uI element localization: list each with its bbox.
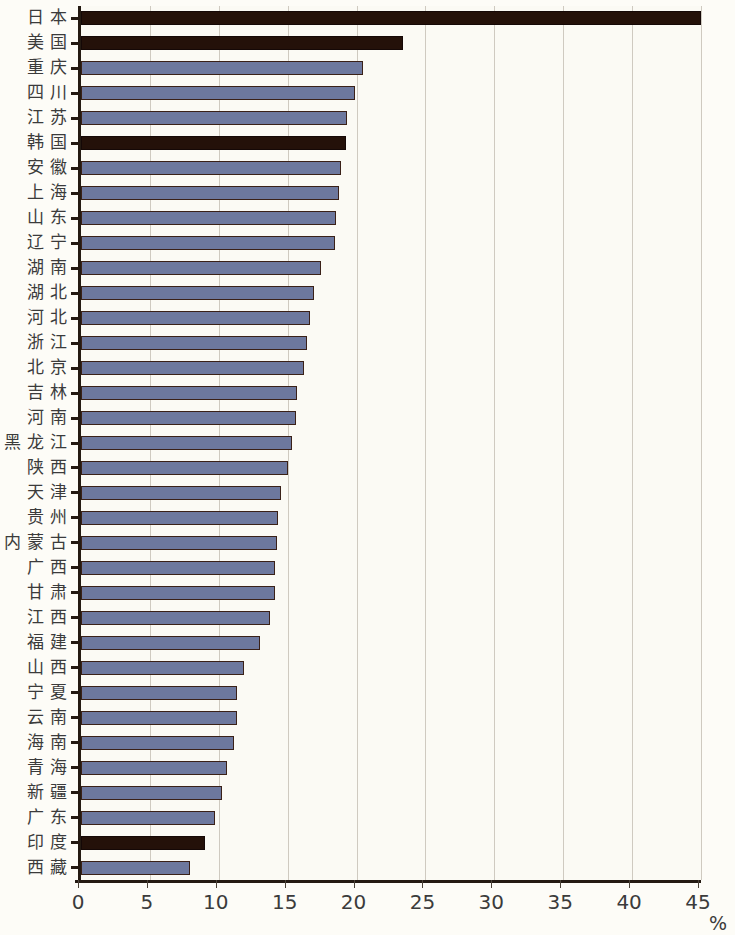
- y-axis-label-内蒙古: 内蒙古: [1, 534, 70, 551]
- bar-海南: [81, 736, 234, 750]
- x-axis-tick-label-group: 051015202530354045: [0, 890, 735, 916]
- bar-row: [81, 586, 701, 600]
- y-axis-label-江西: 江西: [24, 609, 70, 626]
- y-axis-label-海南: 海南: [24, 734, 70, 751]
- x-axis-tick-group: [0, 880, 735, 889]
- bar-row: [81, 736, 701, 750]
- bar-天津: [81, 486, 281, 500]
- y-axis-label-西藏: 西藏: [24, 859, 70, 876]
- bar-内蒙古: [81, 536, 277, 550]
- bar-row: [81, 536, 701, 550]
- y-axis-label-湖南: 湖南: [24, 259, 70, 276]
- x-axis-tick-label-40: 40: [616, 890, 641, 914]
- bar-甘肃: [81, 586, 275, 600]
- gridline-45: [701, 6, 702, 880]
- y-axis-label-四川: 四川: [24, 84, 70, 101]
- bar-河北: [81, 311, 310, 325]
- y-axis-label-陕西: 陕西: [24, 459, 70, 476]
- y-axis-label-重庆: 重庆: [24, 59, 70, 76]
- bar-浙江: [81, 336, 307, 350]
- y-axis-label-上海: 上海: [24, 184, 70, 201]
- x-axis-tick-label-30: 30: [479, 890, 504, 914]
- bar-row: [81, 236, 701, 250]
- y-axis-label-安徽: 安徽: [24, 159, 70, 176]
- bar-row: [81, 436, 701, 450]
- y-axis-label-北京: 北京: [24, 359, 70, 376]
- bar-row: [81, 261, 701, 275]
- bar-河南: [81, 411, 296, 425]
- bar-row: [81, 161, 701, 175]
- bar-row: [81, 636, 701, 650]
- x-axis-tick-0: [78, 880, 79, 888]
- bar-山西: [81, 661, 244, 675]
- y-axis-label-青海: 青海: [24, 759, 70, 776]
- y-axis-label-天津: 天津: [24, 484, 70, 501]
- x-axis-tick-label-10: 10: [203, 890, 228, 914]
- y-axis-label-甘肃: 甘肃: [24, 584, 70, 601]
- y-axis-label-山西: 山西: [24, 659, 70, 676]
- bar-安徽: [81, 161, 341, 175]
- bar-日本: [81, 11, 701, 25]
- bar-广东: [81, 811, 215, 825]
- bar-row: [81, 336, 701, 350]
- bar-row: [81, 486, 701, 500]
- bar-row: [81, 461, 701, 475]
- y-axis-label-column: 日本美国重庆四川江苏韩国安徽上海山东辽宁湖南湖北河北浙江北京吉林河南黑龙江陕西天…: [0, 6, 74, 880]
- bar-row: [81, 661, 701, 675]
- y-axis-label-山东: 山东: [24, 209, 70, 226]
- bar-青海: [81, 761, 227, 775]
- y-axis-label-福建: 福建: [24, 634, 70, 651]
- x-axis-tick-label-45: 45: [685, 890, 710, 914]
- y-axis-label-日本: 日本: [24, 9, 70, 26]
- y-axis-label-辽宁: 辽宁: [24, 234, 70, 251]
- x-axis-tick-label-0: 0: [72, 890, 85, 914]
- bar-row: [81, 361, 701, 375]
- bar-row: [81, 136, 701, 150]
- bar-韩国: [81, 136, 346, 150]
- bar-广西: [81, 561, 275, 575]
- x-axis-tick-label-20: 20: [341, 890, 366, 914]
- y-axis-label-湖北: 湖北: [24, 284, 70, 301]
- y-axis-label-云南: 云南: [24, 709, 70, 726]
- x-axis-tick-5: [147, 880, 148, 888]
- bar-row: [81, 836, 701, 850]
- bar-黑龙江: [81, 436, 292, 450]
- bar-row: [81, 61, 701, 75]
- bar-四川: [81, 86, 355, 100]
- bar-row: [81, 286, 701, 300]
- x-axis-tick-45: [698, 880, 699, 888]
- y-axis-label-河南: 河南: [24, 409, 70, 426]
- bar-row: [81, 811, 701, 825]
- bar-row: [81, 11, 701, 25]
- y-axis-label-广东: 广东: [24, 809, 70, 826]
- y-axis-label-宁夏: 宁夏: [24, 684, 70, 701]
- y-axis-label-新疆: 新疆: [24, 784, 70, 801]
- x-axis-tick-label-5: 5: [141, 890, 154, 914]
- y-axis-label-贵州: 贵州: [24, 509, 70, 526]
- bar-重庆: [81, 61, 363, 75]
- x-axis-tick-30: [491, 880, 492, 888]
- bar-江西: [81, 611, 270, 625]
- bar-云南: [81, 711, 237, 725]
- horizontal-bar-chart: 日本美国重庆四川江苏韩国安徽上海山东辽宁湖南湖北河北浙江北京吉林河南黑龙江陕西天…: [0, 0, 735, 935]
- x-axis-tick-35: [560, 880, 561, 888]
- y-axis-label-黑龙江: 黑龙江: [1, 434, 70, 451]
- bar-row: [81, 411, 701, 425]
- bar-row: [81, 611, 701, 625]
- plot-area: [78, 6, 701, 880]
- y-axis-label-广西: 广西: [24, 559, 70, 576]
- bar-row: [81, 311, 701, 325]
- y-axis-label-浙江: 浙江: [24, 334, 70, 351]
- bar-row: [81, 86, 701, 100]
- bar-湖北: [81, 286, 314, 300]
- bar-row: [81, 861, 701, 875]
- x-axis-tick-15: [285, 880, 286, 888]
- bar-山东: [81, 211, 336, 225]
- bar-北京: [81, 361, 304, 375]
- x-axis-tick-10: [216, 880, 217, 888]
- bar-row: [81, 186, 701, 200]
- bar-印度: [81, 836, 205, 850]
- y-axis-label-江苏: 江苏: [24, 109, 70, 126]
- bar-row: [81, 36, 701, 50]
- bar-row: [81, 761, 701, 775]
